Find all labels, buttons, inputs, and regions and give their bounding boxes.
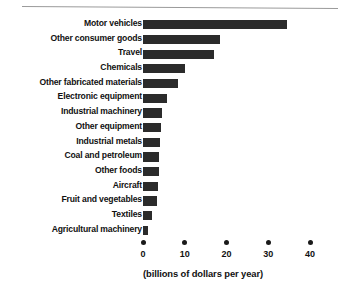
category-label: Industrial machinery	[10, 106, 142, 117]
bar	[143, 182, 158, 191]
category-label: Other consumer goods	[10, 33, 142, 44]
bar	[143, 64, 185, 73]
bar-track	[143, 108, 338, 117]
bar-row: Travel	[0, 47, 338, 62]
bar-track	[143, 196, 338, 205]
category-label: Other equipment	[10, 121, 142, 132]
bar-track	[143, 123, 338, 132]
category-label: Other fabricated materials	[10, 77, 142, 88]
bar	[143, 35, 220, 44]
bar	[143, 152, 159, 161]
axis-tick-mark	[182, 240, 187, 245]
bar-row: Coal and petroleum	[0, 150, 338, 165]
axis-tick-mark	[141, 240, 146, 245]
category-label: Agricultural machinery	[10, 224, 142, 235]
bar	[143, 79, 178, 88]
bar-row: Fruit and vegetables	[0, 194, 338, 209]
bar	[143, 167, 159, 176]
category-label: Motor vehicles	[10, 18, 142, 29]
bar	[143, 94, 167, 103]
bar	[143, 211, 152, 220]
bar	[143, 138, 160, 147]
bar-track	[143, 79, 338, 88]
bar	[143, 123, 161, 132]
axis-tick-label: 40	[305, 249, 315, 259]
axis-tick-mark	[308, 240, 313, 245]
bar-track	[143, 35, 338, 44]
bar	[143, 50, 214, 59]
bar-row: Electronic equipment	[0, 91, 338, 106]
bar-row: Textiles	[0, 209, 338, 224]
category-label: Other foods	[10, 165, 142, 176]
bar-track	[143, 20, 338, 29]
bar-row: Chemicals	[0, 62, 338, 77]
bar-track	[143, 211, 338, 220]
category-label: Coal and petroleum	[10, 150, 142, 161]
plot-area: Motor vehiclesOther consumer goodsTravel…	[0, 18, 338, 238]
category-label: Chemicals	[10, 62, 142, 73]
axis-tick-label: 10	[180, 249, 190, 259]
axis-tick-mark	[224, 240, 229, 245]
axis-tick-label: 0	[140, 249, 145, 259]
bar-track	[143, 50, 338, 59]
category-label: Textiles	[10, 209, 142, 220]
bar-row: Agricultural machinery	[0, 224, 338, 239]
category-label: Fruit and vegetables	[10, 194, 142, 205]
category-label: Electronic equipment	[10, 91, 142, 102]
category-label: Aircraft	[10, 180, 142, 191]
bar-track	[143, 167, 338, 176]
top-divider-rule	[22, 6, 338, 9]
bar-row: Other fabricated materials	[0, 77, 338, 92]
bar-row: Other equipment	[0, 121, 338, 136]
bar-row: Motor vehicles	[0, 18, 338, 33]
bar-row: Other foods	[0, 165, 338, 180]
bar	[143, 226, 148, 235]
bar-chart: Motor vehiclesOther consumer goodsTravel…	[0, 0, 338, 295]
axis-tick-mark	[266, 240, 271, 245]
bar-row: Industrial machinery	[0, 106, 338, 121]
bar-track	[143, 182, 338, 191]
bar-row: Aircraft	[0, 180, 338, 195]
category-label: Industrial metals	[10, 136, 142, 147]
bar-row: Industrial metals	[0, 136, 338, 151]
bar-track	[143, 226, 338, 235]
bar-track	[143, 138, 338, 147]
bar-row: Other consumer goods	[0, 33, 338, 48]
bar	[143, 108, 162, 117]
bar	[143, 20, 287, 29]
x-axis-caption: (billions of dollars per year)	[0, 268, 338, 279]
bar-track	[143, 64, 338, 73]
bar	[143, 196, 157, 205]
category-label: Travel	[10, 47, 142, 58]
axis-tick-label: 20	[221, 249, 231, 259]
axis-tick-label: 30	[263, 249, 273, 259]
bar-track	[143, 152, 338, 161]
bar-track	[143, 94, 338, 103]
